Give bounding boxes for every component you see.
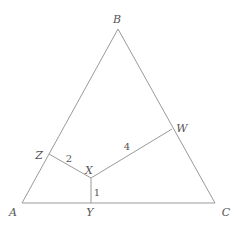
label-y: Y [86, 206, 95, 219]
diagram-svg: A B C X Y Z W 1 2 4 [0, 0, 242, 226]
length-xw: 4 [124, 141, 130, 152]
length-xy: 1 [94, 187, 100, 198]
label-w: W [176, 122, 189, 135]
side-ab [22, 29, 118, 203]
label-z: Z [34, 149, 43, 162]
segment-xw [91, 129, 172, 178]
side-bc [118, 29, 215, 203]
label-x: X [84, 164, 94, 177]
label-b: B [112, 13, 121, 26]
triangle-diagram: A B C X Y Z W 1 2 4 [0, 0, 242, 226]
label-a: A [8, 206, 17, 219]
length-xz: 2 [66, 153, 72, 164]
label-c: C [222, 206, 231, 219]
